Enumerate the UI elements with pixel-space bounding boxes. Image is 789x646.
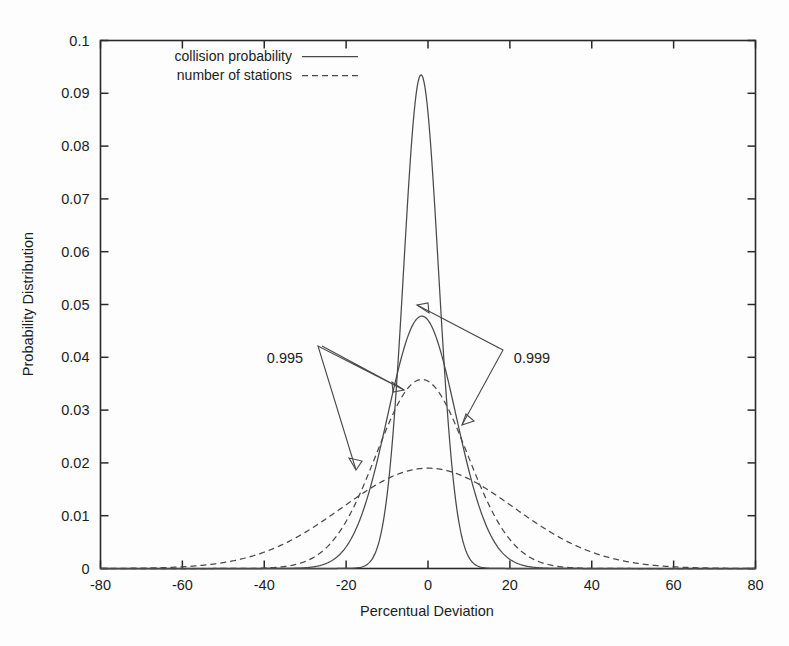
y-tick-label: 0.03: [61, 402, 89, 418]
y-tick-label: 0: [81, 561, 89, 577]
y-tick-label: 0.01: [61, 508, 89, 524]
x-tick-label: 40: [584, 577, 600, 593]
x-tick-label: 0: [424, 577, 432, 593]
chart-figure: -80-60-40-20020406080 00.010.020.030.040…: [0, 0, 789, 646]
annotation-label-0995: 0.995: [267, 350, 303, 366]
curve-number-of-stations-0-995: [101, 468, 756, 568]
probability-distribution-chart: -80-60-40-20020406080 00.010.020.030.040…: [0, 0, 789, 646]
x-tick-label: -60: [172, 577, 193, 593]
x-tick-label: -40: [254, 577, 275, 593]
y-tick-label: 0.08: [61, 138, 89, 154]
y-tick-label: 0.1: [69, 33, 89, 49]
chart-annotations: 0.995 0.999: [267, 303, 550, 470]
x-tick-label: 60: [666, 577, 682, 593]
arrowhead-0995-b: [349, 458, 362, 470]
x-tick-label: 20: [502, 577, 518, 593]
x-axis-title: Percentual Deviation: [360, 603, 494, 619]
x-tick-label: -20: [336, 577, 357, 593]
x-axis-tick-labels: -80-60-40-20020406080: [90, 577, 764, 593]
curve-collision-probability-0-995: [101, 316, 756, 568]
y-axis-tick-labels: 00.010.020.030.040.050.060.070.080.090.1: [61, 33, 89, 577]
y-tick-label: 0.04: [61, 349, 89, 365]
y-tick-label: 0.09: [61, 85, 89, 101]
y-axis-title: Probability Distribution: [20, 232, 36, 376]
arrowhead-0999-b: [462, 414, 474, 425]
y-tick-label: 0.02: [61, 455, 89, 471]
data-curves: [101, 75, 756, 569]
legend-label-number-of-stations: number of stations: [177, 67, 292, 83]
y-tick-label: 0.06: [61, 244, 89, 260]
x-tick-label: -80: [90, 577, 111, 593]
x-tick-label: 80: [747, 577, 763, 593]
curve-number-of-stations-0-999: [101, 379, 756, 568]
legend-label-collision-probability: collision probability: [174, 48, 292, 64]
chart-legend: collision probability number of stations: [174, 48, 358, 83]
annotation-label-0999: 0.999: [514, 350, 550, 366]
curve-collision-probability-0-999: [101, 75, 756, 569]
y-tick-label: 0.05: [61, 297, 89, 313]
y-tick-label: 0.07: [61, 191, 89, 207]
